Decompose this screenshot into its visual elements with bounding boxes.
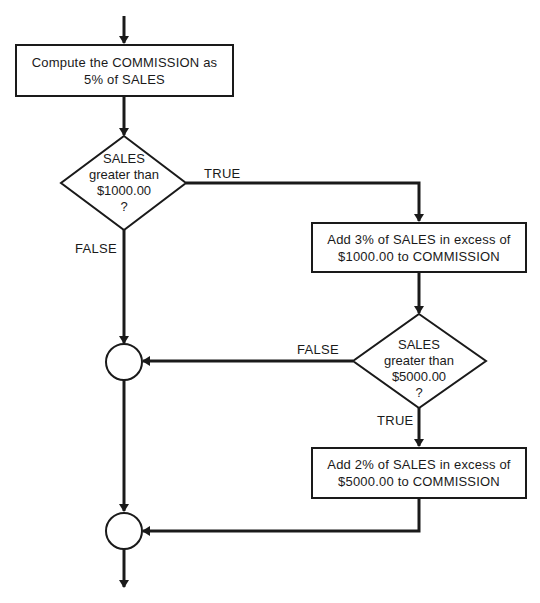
decision-1-false-label: FALSE <box>75 241 117 256</box>
decision-2-line-4: ? <box>369 385 469 401</box>
decision-1-line-3: $1000.00 <box>74 183 174 199</box>
decision-2-line-3: $5000.00 <box>369 369 469 385</box>
junction-2-circle <box>106 513 142 549</box>
process-1-line-1: Compute the COMMISSION as <box>32 54 218 71</box>
process-3-line-1: Add 2% of SALES in excess of <box>327 456 510 473</box>
decision-1-line-2: greater than <box>74 167 174 183</box>
decision-1-text: SALES greater than $1000.00 ? <box>74 151 174 215</box>
decision-2-line-2: greater than <box>369 353 469 369</box>
decision-1-true-label: TRUE <box>204 166 241 181</box>
process-2-line-1: Add 3% of SALES in excess of <box>327 231 510 248</box>
decision-1-line-4: ? <box>74 199 174 215</box>
process-add-3-percent: Add 3% of SALES in excess of $1000.00 to… <box>311 222 527 273</box>
process-3-line-2: $5000.00 to COMMISSION <box>327 473 510 490</box>
decision-2-true-label: TRUE <box>377 413 414 428</box>
process-add-2-percent: Add 2% of SALES in excess of $5000.00 to… <box>311 447 527 499</box>
decision-2-false-label: FALSE <box>297 342 339 357</box>
decision-1-true-path <box>186 183 419 221</box>
process-compute-commission: Compute the COMMISSION as 5% of SALES <box>15 44 234 97</box>
process-3-to-junction-2 <box>143 498 419 531</box>
junction-1-circle <box>106 344 142 380</box>
process-1-line-2: 5% of SALES <box>32 71 218 88</box>
process-2-line-2: $1000.00 to COMMISSION <box>327 248 510 265</box>
decision-2-text: SALES greater than $5000.00 ? <box>369 337 469 401</box>
decision-2-line-1: SALES <box>369 337 469 353</box>
decision-1-line-1: SALES <box>74 151 174 167</box>
